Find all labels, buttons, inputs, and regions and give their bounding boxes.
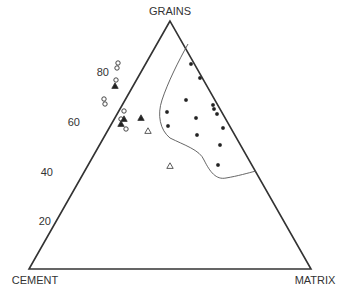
vertex-label-matrix: MATRIX: [295, 274, 336, 286]
ternary-triangle: [29, 21, 311, 269]
filled-circle-marker: [212, 107, 215, 110]
open-circle-marker: [116, 61, 120, 65]
tick-label-40: 40: [41, 166, 53, 178]
filled-circle-marker: [189, 62, 192, 65]
open-circle-marker: [103, 102, 107, 106]
open-triangle-marker: [167, 163, 173, 169]
open-circle-marker: [102, 97, 106, 101]
filled-circle-marker: [165, 110, 168, 113]
open-circle-marker: [124, 127, 128, 131]
filled-circle-marker: [218, 143, 221, 146]
filled-circle-marker: [216, 163, 219, 166]
open-circle-marker: [115, 66, 119, 70]
filled-triangle-marker: [138, 115, 144, 121]
tick-label-80: 80: [97, 66, 109, 78]
field-boundary-curve: [160, 44, 256, 178]
filled-circle-marker: [195, 133, 198, 136]
filled-circle-marker: [194, 116, 197, 119]
open-circle-marker: [122, 109, 126, 113]
vertex-label-cement: CEMENT: [12, 274, 59, 286]
vertex-label-grains: GRAINS: [149, 5, 191, 17]
ternary-diagram: GRAINS CEMENT MATRIX 80 60 40 20: [0, 0, 338, 291]
filled-triangle-marker: [112, 83, 118, 89]
filled-circle-marker: [198, 76, 201, 79]
filled-circle-marker: [166, 124, 169, 127]
open-triangle-marker: [145, 128, 151, 134]
filled-circle-marker: [184, 98, 187, 101]
filled-circle-marker: [215, 112, 218, 115]
tick-label-60: 60: [68, 116, 80, 128]
filled-circle-marker: [221, 126, 224, 129]
tick-label-20: 20: [39, 215, 51, 227]
open-circle-marker: [114, 78, 118, 82]
data-points: [102, 61, 225, 169]
filled-circle-marker: [211, 103, 214, 106]
